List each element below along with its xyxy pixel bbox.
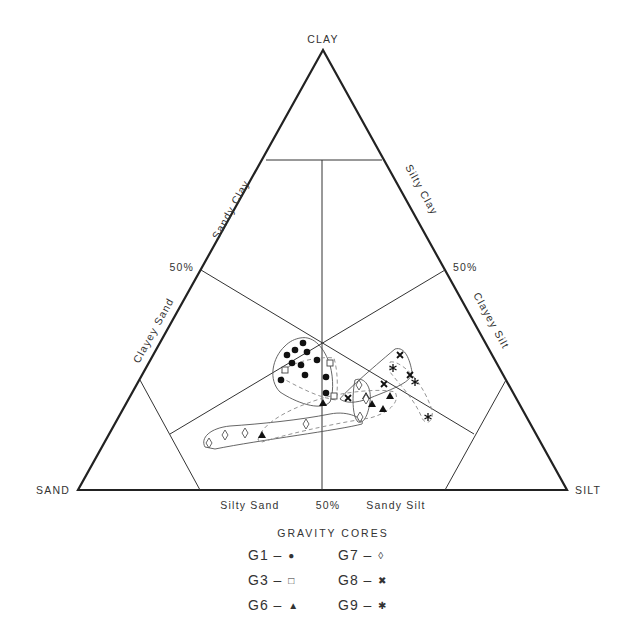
legend: GRAVITY CORES G1 –● G7 –◊ G3 –□ G8 –✖ G6… [248, 527, 418, 613]
legend-label: G1 – [248, 547, 282, 563]
asterisk-icon: ✱ [378, 600, 387, 611]
legend-item-g9: G9 –✱ [338, 597, 418, 613]
legend-label: G8 – [338, 572, 372, 588]
legend-item-g1: G1 –● [248, 547, 328, 563]
percent-mark-bottom: 50% [316, 499, 341, 511]
edge-label-clayey-silt: Clayey Silt [471, 290, 512, 351]
legend-item-g7: G7 –◊ [338, 547, 418, 563]
legend-label: G6 – [248, 597, 282, 613]
x-cross-icon: ✖ [378, 575, 387, 586]
filled-circle-icon: ● [288, 550, 295, 561]
points-G7 [206, 380, 369, 448]
filled-triangle-icon: ▲ [288, 600, 299, 611]
apex-label-silt: SILT [575, 484, 601, 496]
legend-item-g6: G6 –▲ [248, 597, 328, 613]
classification-lines [140, 160, 506, 490]
edge-label-silty-clay: Silty Clay [403, 162, 441, 217]
legend-label: G9 – [338, 597, 372, 613]
apex-label-sand: SAND [36, 484, 70, 496]
apex-label-clay: CLAY [307, 33, 338, 45]
legend-label: G7 – [338, 547, 372, 563]
edge-label-sandy-clay: Sandy Clay [209, 178, 251, 241]
edge-label-sandy-silt: Sandy Silt [366, 499, 425, 511]
legend-item-g8: G8 –✖ [338, 572, 418, 588]
open-diamond-icon: ◊ [378, 550, 384, 561]
percent-mark-left: 50% [169, 261, 194, 273]
edge-label-silty-sand: Silty Sand [220, 499, 279, 511]
legend-item-g3: G3 –□ [248, 572, 328, 588]
legend-title: GRAVITY CORES [248, 527, 418, 539]
open-square-icon: □ [288, 575, 295, 586]
legend-grid: G1 –● G7 –◊ G3 –□ G8 –✖ G6 –▲ G9 –✱ [248, 547, 418, 613]
legend-label: G3 – [248, 572, 282, 588]
percent-mark-right: 50% [453, 261, 478, 273]
